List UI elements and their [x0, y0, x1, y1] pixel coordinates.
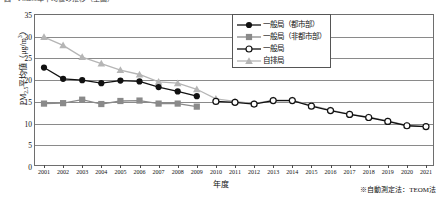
legend-marker-filled-circle-icon: [236, 17, 262, 29]
x-axis-tick-label: 2019: [382, 169, 394, 175]
x-axis-tick-label: 2014: [286, 169, 298, 175]
legend-item-label: 自排局: [262, 54, 284, 65]
data-point-filled-triangle: [59, 42, 67, 49]
data-point-filled-square: [41, 100, 47, 106]
series-line: [216, 101, 426, 127]
data-point-filled-circle: [246, 22, 252, 28]
data-point-open-circle: [213, 98, 219, 104]
x-axis-tick-label: 2005: [114, 169, 126, 175]
y-axis-tick-label: 0: [28, 163, 32, 172]
data-point-filled-circle: [156, 84, 162, 90]
data-point-filled-circle: [136, 78, 142, 84]
x-axis-tick-label: 2006: [134, 169, 146, 175]
legend-marker-open-circle-icon: [236, 41, 262, 53]
legend-marker-filled-square-icon: [236, 29, 262, 41]
x-axis-tick-label: 2001: [38, 169, 50, 175]
x-axis-tick-label: 2012: [248, 169, 260, 175]
y-axis-tick-label: 5: [28, 141, 32, 150]
legend-item[interactable]: 一般局: [236, 41, 326, 53]
x-axis-tick-label: 2021: [420, 169, 432, 175]
data-point-filled-circle: [98, 80, 104, 86]
x-axis-tick-label: 2004: [95, 169, 107, 175]
x-axis-tick-label: 2017: [344, 169, 356, 175]
data-point-open-circle: [366, 114, 372, 120]
data-point-open-circle: [308, 103, 314, 109]
data-point-filled-circle: [79, 77, 85, 83]
chart-figure: 図 PM2.5年平均値の推移（全国） PM2.5平均値（μg/m3） 35302…: [0, 0, 442, 197]
x-axis-tick-label: 2010: [210, 169, 222, 175]
data-point-filled-circle: [41, 64, 47, 70]
data-point-filled-square: [246, 34, 252, 40]
y-axis-tick-label: 35: [25, 11, 33, 20]
y-axis-title-sub: 2.5: [23, 87, 29, 94]
x-axis-tick-label: 2013: [267, 169, 279, 175]
y-axis-tick-label: 20: [25, 76, 33, 85]
x-axis-tick-label: 2003: [76, 169, 88, 175]
data-point-open-circle: [246, 46, 252, 52]
data-point-filled-circle: [60, 76, 66, 82]
data-point-open-circle: [289, 98, 295, 104]
data-point-open-circle: [328, 108, 334, 114]
data-point-filled-triangle: [40, 33, 48, 40]
x-axis-tick-label: 2008: [172, 169, 184, 175]
data-point-filled-circle: [194, 93, 200, 99]
x-axis-tick-label: 2009: [191, 169, 203, 175]
data-point-filled-square: [175, 100, 181, 106]
x-axis-tick-label: 2020: [401, 169, 413, 175]
data-point-open-circle: [251, 101, 257, 107]
legend-item-label: 一般局（非都市部）: [262, 30, 326, 41]
x-axis-tick-label: 2015: [305, 169, 317, 175]
data-point-filled-square: [136, 97, 142, 103]
series-group: [41, 97, 200, 110]
data-point-filled-circle: [117, 77, 123, 83]
legend-item[interactable]: 自排局: [236, 53, 326, 65]
legend-item-label: 一般局: [262, 42, 284, 53]
figure-caption: 図 PM2.5年平均値の推移（全国）: [4, 0, 304, 7]
x-axis-tick-label: 2002: [57, 169, 69, 175]
data-point-filled-square: [156, 100, 162, 106]
data-point-filled-triangle: [78, 53, 86, 60]
data-point-open-circle: [404, 123, 410, 129]
data-point-open-circle: [385, 118, 391, 124]
data-point-filled-square: [60, 100, 66, 106]
data-point-open-circle: [232, 99, 238, 105]
data-point-filled-square: [194, 104, 200, 110]
x-axis-tick-label: 2018: [363, 169, 375, 175]
y-axis-title-sup: 3: [17, 35, 23, 38]
y-axis-tick-label: 25: [25, 54, 33, 63]
data-point-filled-square: [117, 98, 123, 104]
x-axis-tick-label: 2007: [153, 169, 165, 175]
data-point-open-circle: [270, 98, 276, 104]
data-point-filled-circle: [175, 88, 181, 94]
chart-footnote: ※自動測定法：TEOM法: [360, 184, 436, 194]
legend-marker-filled-triangle-icon: [236, 53, 262, 65]
legend-item[interactable]: 一般局（非都市部）: [236, 29, 326, 41]
y-axis-tick-label: 15: [25, 97, 33, 106]
data-point-filled-square: [98, 101, 104, 107]
data-point-open-circle: [347, 111, 353, 117]
y-axis-tick-label: 30: [25, 32, 33, 41]
data-point-open-circle: [423, 124, 429, 130]
x-axis-tick-label: 2016: [325, 169, 337, 175]
y-axis-tick-label: 10: [25, 119, 33, 128]
x-axis-tick-label: 2011: [229, 169, 241, 175]
legend-item[interactable]: 一般局（都市部）: [236, 17, 326, 29]
chart-legend: 一般局（都市部）一般局（非都市部）一般局自排局: [232, 14, 331, 68]
legend-item-label: 一般局（都市部）: [262, 18, 319, 29]
data-point-filled-square: [79, 97, 85, 103]
